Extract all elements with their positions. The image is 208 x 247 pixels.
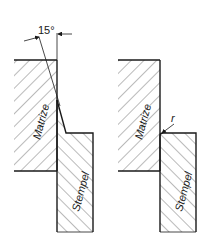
punch-left [57, 100, 93, 232]
radius-dimension: r [162, 112, 176, 133]
radius-label: r [171, 112, 176, 124]
angle-label: 15° [38, 24, 55, 36]
left-figure: 15° Matrize Stempel [14, 24, 93, 232]
technical-drawing: 15° Matrize Stempel r Matrize Stempel [0, 0, 208, 247]
right-figure: r Matrize Stempel [118, 60, 196, 232]
